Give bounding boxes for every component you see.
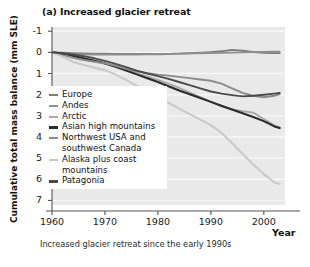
legend-swatch-icon	[49, 126, 58, 129]
legend[interactable]: EuropeAndesArcticAsian high mountainsNor…	[45, 86, 167, 189]
y-tick-label: 7	[22, 194, 42, 205]
x-tick-label: 1980	[141, 216, 175, 227]
legend-item[interactable]: Northwest USA and southwest Canada	[47, 132, 165, 154]
y-tick-label: 1	[22, 68, 42, 79]
y-tick-label: -1	[22, 25, 42, 36]
legend-swatch-icon	[49, 137, 58, 139]
legend-item-label: Northwest USA and southwest Canada	[62, 132, 146, 154]
x-tick-label: 1990	[194, 216, 228, 227]
legend-item[interactable]: Arctic	[47, 111, 165, 122]
y-tick-label: 4	[22, 131, 42, 142]
legend-item[interactable]: Asian high mountains	[47, 121, 165, 132]
y-tick-label: 0	[22, 46, 42, 57]
legend-item[interactable]: Alaska plus coast mountains	[47, 154, 165, 176]
legend-item[interactable]: Andes	[47, 100, 165, 111]
legend-swatch-icon	[49, 105, 58, 107]
y-tick-label: 3	[22, 110, 42, 121]
legend-item-label: Alaska plus coast mountains	[62, 154, 136, 176]
legend-item[interactable]: Patagonia	[47, 175, 165, 186]
legend-swatch-icon	[49, 180, 58, 183]
x-tick-marks	[52, 211, 264, 215]
legend-item-label: Arctic	[62, 111, 86, 122]
y-tick-label: 5	[22, 152, 42, 163]
x-tick-label: 1960	[35, 216, 69, 227]
legend-item-label: Europe	[62, 89, 92, 100]
x-axis-title: Year	[272, 227, 296, 238]
figure-container: (a) Increased glacier retreat Cumulative…	[0, 0, 310, 267]
legend-swatch-icon	[49, 116, 58, 118]
legend-swatch-icon	[49, 94, 58, 96]
legend-item-label: Andes	[62, 100, 89, 111]
y-tick-label: 6	[22, 173, 42, 184]
x-tick-label: 2000	[247, 216, 281, 227]
legend-item-label: Patagonia	[62, 175, 105, 186]
legend-item[interactable]: Europe	[47, 89, 165, 100]
legend-swatch-icon	[49, 159, 58, 161]
figure-caption: Increased glacier retreat since the earl…	[40, 239, 240, 250]
legend-item-label: Asian high mountains	[62, 121, 155, 132]
x-tick-label: 1970	[88, 216, 122, 227]
y-tick-label: 2	[22, 89, 42, 100]
